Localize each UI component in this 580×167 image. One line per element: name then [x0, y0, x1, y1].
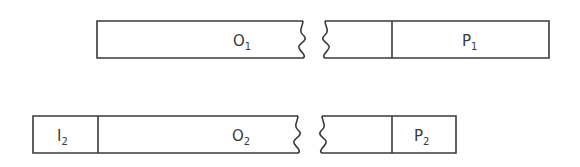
segment-label-p2: P2 — [414, 127, 429, 147]
bar-2-right-outline — [320, 116, 456, 153]
segment-label-i2: I2 — [57, 127, 68, 147]
bar-1: O1 P1 — [97, 21, 549, 58]
segment-label-o2: O2 — [232, 127, 250, 147]
bar-1-right-outline — [323, 21, 549, 58]
bar-1-left-outline — [97, 21, 305, 58]
bar-2-left-outline — [33, 116, 300, 153]
bar-2: I2 O2 P2 — [33, 116, 456, 153]
segment-label-p1: P1 — [462, 32, 477, 52]
diagram-canvas: O1 P1 I2 O2 P2 — [0, 0, 580, 167]
segment-label-o1: O1 — [233, 32, 251, 52]
